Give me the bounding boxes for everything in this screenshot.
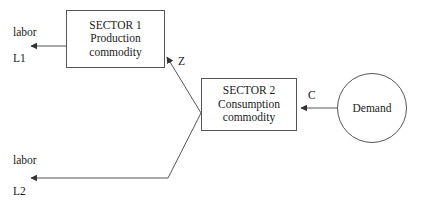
node-sector-2-title: SECTOR 2	[223, 84, 276, 98]
edge-label-l2: L2	[13, 186, 26, 198]
node-sector-2[interactable]: SECTOR 2 Consumption commodity	[201, 78, 297, 131]
node-sector-1-subtitle-2: commodity	[89, 46, 141, 60]
node-sector-2-subtitle-2: commodity	[223, 111, 275, 125]
edge-label-labor-1: labor	[13, 27, 37, 39]
edge-label-l1: L1	[13, 53, 26, 65]
node-sector-2-subtitle-1: Consumption	[218, 98, 280, 112]
node-sector-1-subtitle-1: Production	[90, 32, 140, 46]
edge-label-labor-2: labor	[13, 155, 37, 167]
edge-label-c: C	[308, 90, 316, 102]
node-sector-1[interactable]: SECTOR 1 Production commodity	[66, 10, 165, 68]
node-sector-1-title: SECTOR 1	[89, 19, 142, 33]
labor2-arrow	[31, 113, 201, 178]
node-demand[interactable]: Demand	[337, 73, 407, 143]
edge-label-z: Z	[178, 56, 185, 68]
flow-diagram-canvas: SECTOR 1 Production commodity SECTOR 2 C…	[0, 0, 421, 210]
node-demand-label: Demand	[353, 102, 392, 114]
